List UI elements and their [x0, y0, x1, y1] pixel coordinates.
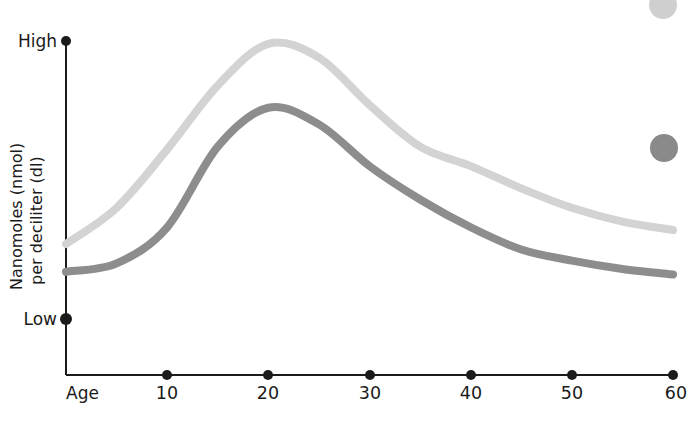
x-tick-label-20: 20	[257, 383, 279, 403]
x-axis-tick-dot-30	[365, 370, 375, 380]
x-tick-label-30: 30	[359, 383, 381, 403]
series-line-lower	[66, 107, 673, 275]
y-axis-low-dot	[60, 313, 72, 325]
x-axis-tick-dot-50	[567, 370, 577, 380]
chart-container: Nanomoles (nmol) per deciliter (dl) High…	[0, 0, 691, 429]
y-axis-label-line2: per deciliter (dl)	[27, 156, 46, 285]
x-axis-tick-dot-60	[668, 370, 678, 380]
series-line-upper	[66, 42, 673, 243]
y-tick-label-high: High	[18, 31, 57, 51]
y-axis-label-line1: Nanomoles (nmol)	[7, 143, 26, 290]
x-axis-tick-dot-20	[263, 370, 273, 380]
x-axis-origin-label: Age	[66, 383, 99, 403]
x-tick-label-50: 50	[561, 383, 583, 403]
x-tick-label-60: 60	[665, 383, 687, 403]
x-axis-tick-dot-10	[162, 370, 172, 380]
line-chart: Nanomoles (nmol) per deciliter (dl) High…	[0, 0, 691, 429]
legend-dot-dark[interactable]	[650, 134, 678, 162]
y-axis-label: Nanomoles (nmol) per deciliter (dl)	[7, 143, 46, 290]
y-tick-label-low: Low	[24, 309, 58, 329]
x-axis-tick-dot-40	[466, 370, 476, 380]
legend-dot-light[interactable]	[649, 0, 677, 19]
x-tick-label-40: 40	[460, 383, 482, 403]
x-tick-label-10: 10	[156, 383, 178, 403]
y-axis-high-dot	[61, 36, 71, 46]
